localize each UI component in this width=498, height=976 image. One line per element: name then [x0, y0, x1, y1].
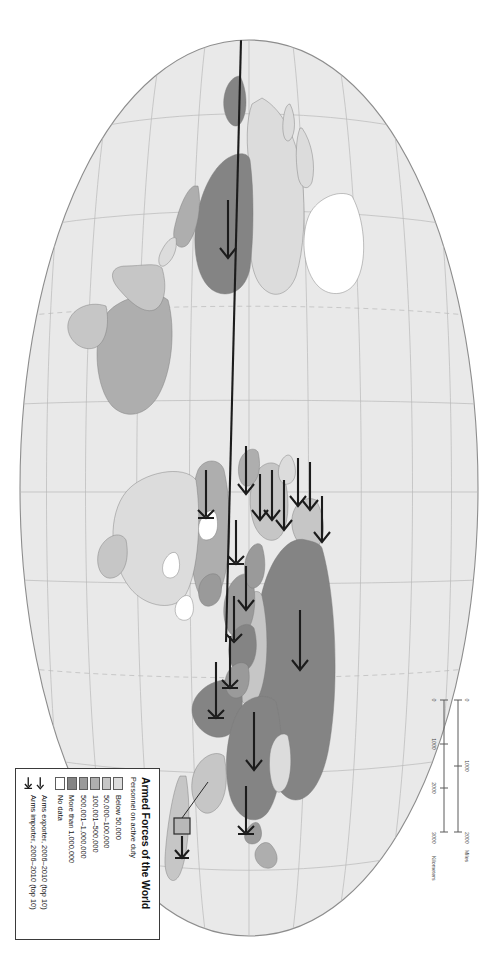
- legend-divider-space: [50, 777, 54, 931]
- scale-km-1000: 1000: [431, 738, 437, 750]
- legend-row: Below 50,000: [112, 777, 124, 931]
- legend-label: Arms importer, 2006–2010 (top 10): [29, 795, 38, 910]
- legend-swatch-more-than-1000000: [67, 777, 77, 790]
- scale-miles-2000: 2000: [464, 832, 470, 844]
- legend-label: 500,001–1,000,000: [79, 795, 88, 859]
- legend-label: More than 1,000,000: [67, 795, 76, 863]
- scale-km-3000: 3000: [431, 832, 437, 844]
- map-legend: Armed Forces of the World Personnel on a…: [15, 768, 160, 940]
- legend-label: 100,001–500,000: [91, 795, 100, 853]
- legend-label: No data: [56, 795, 65, 821]
- arrow-exporter-icon: [40, 777, 50, 790]
- legend-class-rows: Below 50,000 50,000–100,000 100,001–500,…: [27, 777, 124, 931]
- map-page: 0 1000 2000 Miles 0 1000 2000 3000 Kilom…: [0, 0, 498, 976]
- scale-km-unit: Kilometers: [431, 856, 437, 881]
- legend-row: 500,001–1,000,000: [78, 777, 90, 931]
- legend-row-exporter: Arms exporter, 2006–2010 (top 10): [39, 777, 51, 931]
- legend-subtitle: Personnel on active duty: [129, 777, 138, 931]
- legend-row: More than 1,000,000: [66, 777, 78, 931]
- legend-swatch-below-50000: [113, 777, 123, 790]
- legend-swatch-100001-500000: [90, 777, 100, 790]
- legend-swatch-50000-100000: [102, 777, 112, 790]
- legend-row: 100,001–500,000: [89, 777, 101, 931]
- country-greenland: [304, 193, 364, 293]
- legend-row-importer: Arms importer, 2006–2010 (top 10): [27, 777, 39, 931]
- map-plate: 0 1000 2000 Miles 0 1000 2000 3000 Kilom…: [0, 0, 498, 976]
- scale-miles-1000: 1000: [464, 760, 470, 772]
- legend-label: 50,000–100,000: [102, 795, 111, 848]
- legend-row: No data: [54, 777, 66, 931]
- scale-km-2000: 2000: [431, 782, 437, 794]
- scale-miles-unit: Miles: [464, 850, 470, 863]
- legend-label: Arms exporter, 2006–2010 (top 10): [40, 795, 49, 910]
- legend-row: 50,000–100,000: [101, 777, 113, 931]
- arrow-importer-icon: [28, 777, 38, 790]
- scale-km-0: 0: [431, 699, 437, 702]
- legend-swatch-no-data: [55, 777, 65, 790]
- legend-label: Below 50,000: [114, 795, 123, 840]
- scale-miles-0: 0: [464, 699, 470, 702]
- legend-swatch-500001-1000000: [79, 777, 89, 790]
- legend-title: Armed Forces of the World: [140, 777, 152, 931]
